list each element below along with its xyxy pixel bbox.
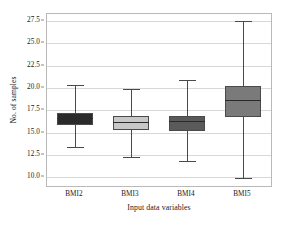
- whisker-upper: [131, 89, 132, 117]
- whisker-cap-lower: [235, 178, 252, 179]
- y-axis-tick-label: 15.0: [27, 128, 40, 136]
- y-axis-tick-label: 27.5: [27, 16, 40, 24]
- whisker-cap-upper: [179, 80, 196, 81]
- y-axis-tick-mark: [41, 176, 44, 177]
- y-axis-tick-mark: [41, 131, 44, 132]
- median-line: [225, 100, 261, 101]
- whisker-cap-lower: [179, 161, 196, 162]
- whisker-lower: [187, 131, 188, 161]
- box-iqr: [225, 86, 261, 117]
- whisker-upper: [243, 21, 244, 86]
- box-iqr: [169, 116, 205, 130]
- y-axis-tick-label: 12.5: [27, 150, 40, 158]
- y-axis-tick-label: 17.5: [27, 105, 40, 113]
- x-axis-tick-label-bmi5: BMI5: [233, 190, 251, 198]
- y-axis-tick-mark: [41, 20, 44, 21]
- whisker-cap-lower: [123, 157, 140, 158]
- x-axis-tick-labels: BMI2BMI3BMI4BMI5: [46, 190, 272, 202]
- whisker-lower: [131, 130, 132, 157]
- box-plot-bmi3: [103, 14, 159, 186]
- y-axis-tick-label: 10.0: [27, 172, 40, 180]
- boxplot-figure: No. of samples 10.012.515.017.520.022.52…: [0, 0, 293, 226]
- y-axis-tick-mark: [41, 109, 44, 110]
- plot-area: [46, 13, 272, 187]
- x-axis-tick-label-bmi4: BMI4: [177, 190, 195, 198]
- whisker-cap-upper: [67, 85, 84, 86]
- median-line: [57, 118, 93, 119]
- y-axis-tick-label: 20.0: [27, 83, 40, 91]
- y-axis-tick-mark: [41, 42, 44, 43]
- median-line: [169, 121, 205, 122]
- box-plot-bmi4: [159, 14, 215, 186]
- x-axis-tick-label-bmi2: BMI2: [65, 190, 83, 198]
- y-axis-tick-mark: [41, 64, 44, 65]
- median-line: [113, 122, 149, 123]
- whisker-upper: [75, 85, 76, 113]
- whisker-lower: [243, 117, 244, 178]
- whisker-cap-lower: [67, 147, 84, 148]
- x-axis-title: Input data variables: [46, 203, 272, 212]
- whisker-cap-upper: [235, 21, 252, 22]
- box-plot-bmi2: [47, 14, 103, 186]
- whisker-upper: [187, 80, 188, 117]
- y-axis-tick-label: 25.0: [27, 38, 40, 46]
- y-axis-tick-mark: [41, 86, 44, 87]
- y-axis-tick-mark: [41, 153, 44, 154]
- whisker-lower: [75, 125, 76, 147]
- x-axis-tick-label-bmi3: BMI3: [121, 190, 139, 198]
- whisker-cap-upper: [123, 89, 140, 90]
- y-axis-tick-labels: 10.012.515.017.520.022.525.027.5: [0, 13, 44, 187]
- box-plot-bmi5: [215, 14, 271, 186]
- y-axis-tick-label: 22.5: [27, 61, 40, 69]
- box-iqr: [113, 116, 149, 129]
